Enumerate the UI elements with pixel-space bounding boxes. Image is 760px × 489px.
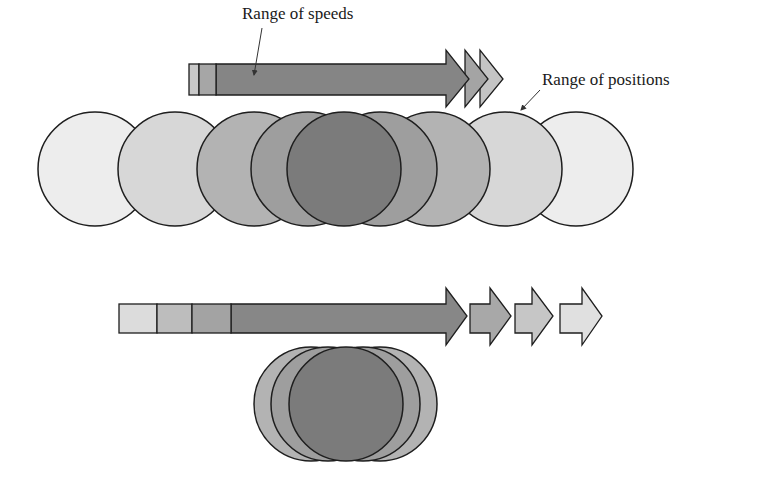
bottom-arrow-head-2	[470, 288, 511, 345]
top-arrow-main	[216, 50, 469, 107]
bottom-speed-arrow	[119, 288, 602, 345]
position-circle-center	[287, 112, 401, 226]
top-speed-arrow	[189, 50, 503, 107]
bottom-bar-segment-3	[192, 304, 231, 333]
top-bar-segment-2	[199, 64, 216, 95]
bottom-position-circles	[254, 347, 437, 461]
position-circle-center	[289, 347, 403, 461]
bottom-diagram	[119, 288, 602, 461]
positions-leader-line	[521, 90, 540, 110]
bottom-bar-segment-1	[119, 304, 157, 333]
range-of-speeds-label: Range of speeds	[242, 4, 353, 23]
bottom-arrow-main	[231, 288, 467, 345]
bottom-arrow-head-3	[515, 288, 553, 345]
top-position-circles	[38, 112, 633, 226]
top-diagram: Range of speeds Range of positions	[38, 4, 670, 226]
range-of-positions-label: Range of positions	[542, 70, 670, 89]
bottom-bar-segment-2	[157, 304, 192, 333]
uncertainty-diagram: Range of speeds Range of positions	[0, 0, 760, 489]
bottom-arrow-head-4	[560, 288, 602, 345]
top-bar-segment-1	[189, 64, 199, 95]
